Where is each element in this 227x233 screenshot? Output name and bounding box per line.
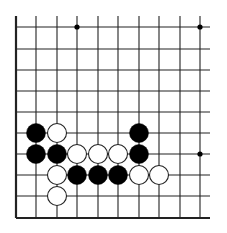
star-point <box>197 24 202 29</box>
black-stone <box>27 145 46 164</box>
white-stone <box>48 124 67 143</box>
black-stone <box>27 124 46 143</box>
star-point <box>74 24 79 29</box>
star-point <box>197 151 202 156</box>
white-stone <box>130 166 149 185</box>
black-stone <box>48 145 67 164</box>
go-board <box>0 0 227 233</box>
black-stone <box>130 145 149 164</box>
black-stone <box>89 166 108 185</box>
white-stone <box>89 145 108 164</box>
white-stone <box>150 166 169 185</box>
black-stone <box>68 166 87 185</box>
board-grid <box>16 16 210 218</box>
black-stone <box>109 166 128 185</box>
black-stone <box>130 124 149 143</box>
white-stone <box>109 145 128 164</box>
white-stone <box>68 145 87 164</box>
white-stone <box>48 187 67 206</box>
white-stone <box>48 166 67 185</box>
